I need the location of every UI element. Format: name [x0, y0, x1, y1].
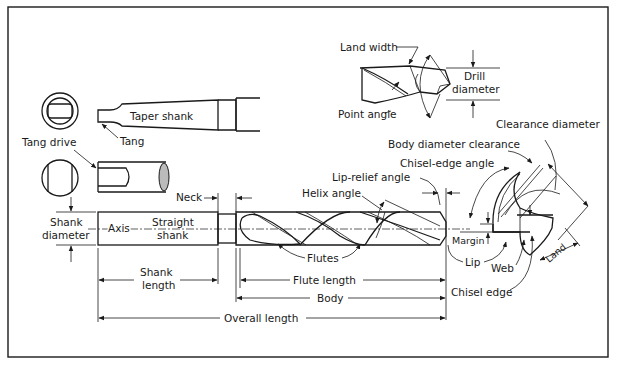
chisel-edge-label: Chisel edge	[451, 286, 512, 298]
straight-shank-label-2: shank	[157, 229, 189, 241]
straight-shank-label-1: Straight	[152, 216, 194, 228]
flute-length-label: Flute length	[293, 274, 356, 286]
lip-label: Lip	[465, 256, 481, 268]
tang-drive-label: Tang drive	[21, 136, 76, 148]
drill-diameter-label-2: diameter	[452, 83, 500, 95]
neck-label: Neck	[176, 191, 203, 203]
shank-length-label-2: length	[142, 279, 175, 291]
lip-relief-angle-label: Lip-relief angle	[332, 171, 410, 183]
body-label: Body	[317, 292, 344, 304]
drill-nomenclature-diagram: Taper shank Tang Tang drive Axis Straigh…	[0, 0, 622, 366]
shank-diameter-label-2: diameter	[42, 229, 90, 241]
tang-label: Tang	[119, 135, 144, 147]
helix-angle-label: Helix angle	[302, 187, 361, 199]
axis-label: Axis	[108, 222, 130, 234]
taper-shank-label: Taper shank	[129, 110, 194, 122]
margin-label: Margin	[452, 235, 484, 246]
drill-diameter-label-1: Drill	[464, 70, 485, 82]
point-angle-label: Point angle	[338, 108, 397, 120]
web-label: Web	[491, 262, 514, 274]
chisel-edge-angle-label: Chisel-edge angle	[400, 157, 494, 169]
shank-diameter-label-1: Shank	[50, 216, 83, 228]
flutes-label: Flutes	[307, 252, 339, 264]
shank-length-label-1: Shank	[140, 266, 173, 278]
overall-length-label: Overall length	[224, 312, 298, 324]
clearance-diameter-label: Clearance diameter	[496, 118, 600, 130]
land-width-label: Land width	[340, 41, 398, 53]
body-diameter-clearance-label: Body diameter clearance	[388, 138, 520, 150]
